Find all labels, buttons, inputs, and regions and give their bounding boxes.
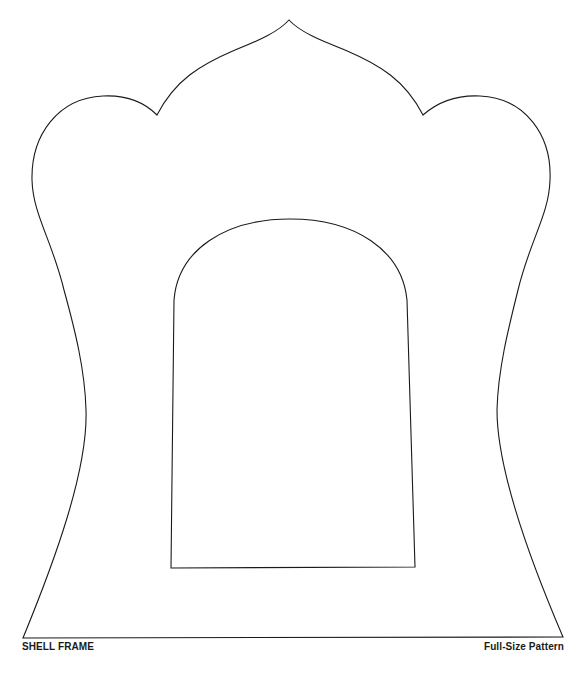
inner-window-cutout bbox=[171, 219, 415, 568]
pattern-sheet: SHELL FRAME Full-Size Pattern bbox=[0, 0, 587, 678]
outer-frame-outline bbox=[23, 20, 563, 638]
pattern-subtitle: Full-Size Pattern bbox=[484, 641, 564, 652]
pattern-title: SHELL FRAME bbox=[22, 641, 94, 652]
shell-frame-pattern bbox=[0, 0, 587, 678]
